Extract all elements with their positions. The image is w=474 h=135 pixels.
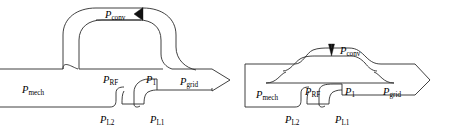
left-loop-inner-path bbox=[79, 20, 172, 69]
right-label-p-mech: Pmech bbox=[255, 89, 278, 102]
right-loss-branch-l1-outer bbox=[329, 90, 342, 104]
left-diagram: PRF P1 Pgrid Pmech PL2 PL1 Pconv bbox=[0, 8, 230, 128]
left-label-p1: P1 bbox=[145, 74, 156, 87]
left-loss-branch-l1-outer bbox=[144, 90, 157, 104]
right-label-p1: P1 bbox=[344, 86, 355, 99]
right-label-p-l2: PL2 bbox=[284, 114, 300, 127]
left-label-p-l2: PL2 bbox=[99, 114, 115, 127]
left-loop-outer-path-right bbox=[176, 47, 196, 70]
right-diagram: PRF P1 Pgrid Pmech PL2 PL1 Pconv bbox=[245, 44, 430, 127]
right-main-band-top bbox=[245, 48, 430, 95]
right-loop-skirt-right bbox=[374, 72, 394, 83]
left-loop-outer-path-left-foot bbox=[63, 65, 78, 69]
left-loop-arrowhead-icon bbox=[134, 8, 143, 21]
right-label-p-grid: Pgrid bbox=[382, 86, 401, 99]
right-loss-branch-l1-inner bbox=[319, 84, 342, 104]
right-label-p-rf: PRF bbox=[304, 86, 320, 99]
left-loss-branch-l2-inner bbox=[122, 91, 124, 104]
figure-canvas: PRF P1 Pgrid Pmech PL2 PL1 Pconv bbox=[0, 0, 474, 135]
left-label-p-mech: Pmech bbox=[21, 84, 44, 97]
right-loop-skirt bbox=[266, 72, 286, 83]
sankey-diagram-pair: PRF P1 Pgrid Pmech PL2 PL1 Pconv bbox=[0, 0, 474, 135]
right-label-p-l1: PL1 bbox=[334, 114, 350, 127]
left-loss-branch-l1-cap bbox=[134, 104, 140, 107]
left-label-p-rf: PRF bbox=[102, 74, 118, 87]
left-label-p-l1: PL1 bbox=[149, 114, 165, 127]
left-label-p-grid: Pgrid bbox=[179, 76, 198, 89]
right-loss-branch-l1-cap bbox=[319, 104, 325, 107]
